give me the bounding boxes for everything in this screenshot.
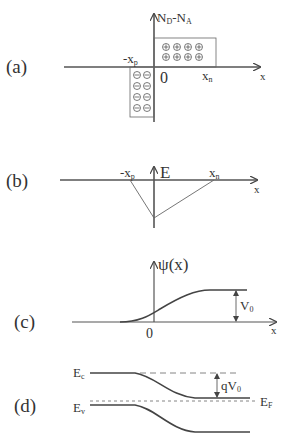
panel-b: (b) E -xp xn x (6, 163, 260, 228)
panel-a-label: (a) (6, 56, 27, 78)
electric-field-curve (130, 180, 214, 218)
plus-charge-icon (174, 44, 181, 51)
minus-charge-icon (144, 105, 151, 112)
v0-label: V0 (240, 298, 253, 314)
plus-charge-icon (163, 54, 170, 61)
tick-label-minus-xp: -xp (123, 51, 138, 67)
panel-d-label: (d) (14, 395, 36, 417)
panel-c: (c) ψ(x) V0 0 x (14, 255, 277, 341)
x-axis-label: x (260, 70, 266, 82)
panel-b-label: (b) (6, 170, 28, 192)
origin-label: 0 (146, 326, 153, 341)
plus-charge-icon (185, 44, 192, 51)
ec-label: Ec (73, 365, 85, 381)
origin-label: 0 (160, 69, 168, 86)
ef-label: EF (260, 394, 273, 410)
plus-charge-icon (163, 44, 170, 51)
minus-charge-icon (134, 72, 141, 79)
tick-label-minus-xp: -xp (120, 165, 135, 181)
minus-charge-icon (134, 83, 141, 90)
qv0-label: qV0 (221, 378, 241, 394)
tick-label-xn: xn (202, 68, 213, 84)
plus-charge-icon (185, 54, 192, 61)
minus-charge-icon (144, 72, 151, 79)
ev-label: Ev (73, 400, 85, 416)
pn-junction-figure: (a) ND-NA (0, 0, 287, 442)
plus-charge-icon (196, 54, 203, 61)
panel-d: (d) Ec Ev qV0 EF (14, 365, 273, 432)
panel-a: (a) ND-NA (6, 10, 266, 122)
plus-charge-icon (174, 54, 181, 61)
x-axis-label: x (254, 183, 260, 195)
valence-band-edge (90, 405, 250, 432)
donor-charge-box (154, 38, 216, 67)
potential-curve (120, 290, 247, 322)
plus-charge-icon (196, 44, 203, 51)
x-axis-label: x (271, 324, 277, 336)
panel-c-label: (c) (14, 311, 35, 333)
tick-label-xn: xn (209, 165, 220, 181)
y-axis-label-psi: ψ(x) (158, 255, 188, 274)
y-axis-label-nd-na: ND-NA (157, 10, 192, 26)
minus-charge-icon (144, 94, 151, 101)
minus-charge-icon (134, 105, 141, 112)
minus-charge-icon (144, 83, 151, 90)
negative-charges (134, 72, 151, 112)
y-axis-label-e: E (160, 163, 170, 182)
minus-charge-icon (134, 94, 141, 101)
positive-charges (163, 44, 203, 61)
